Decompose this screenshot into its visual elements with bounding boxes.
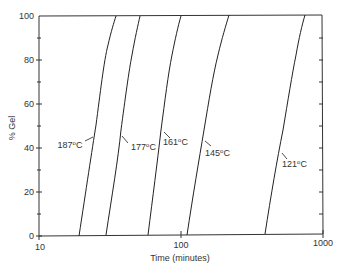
gel-time-chart: 0 20 40 60 80 100 10 100 1000 Time (minu…: [0, 0, 340, 270]
curve-121C: [265, 15, 305, 234]
x-tick-1000: 1000: [313, 238, 333, 248]
label-177C: 177oC: [131, 142, 156, 152]
label-161C: 161oC: [163, 137, 188, 147]
y-tick-20: 20: [24, 187, 34, 197]
label-145C: 145oC: [205, 148, 230, 158]
label-121C: 121oC: [282, 159, 307, 169]
curves: [79, 15, 305, 236]
y-tick-0: 0: [29, 231, 34, 241]
y-tick-80: 80: [24, 55, 34, 65]
curve-145C: [187, 15, 229, 235]
curve-161C: [148, 16, 181, 235]
y-axis-labels: 0 20 40 60 80 100: [19, 11, 34, 241]
plot-frame: [39, 15, 323, 236]
y-tick-40: 40: [24, 143, 34, 153]
y-tick-60: 60: [24, 99, 34, 109]
curve-labels: 187oC 177oC 161oC 145oC 121oC: [58, 137, 308, 169]
x-tick-10: 10: [35, 242, 45, 252]
x-tick-100: 100: [173, 240, 188, 250]
curve-177C: [106, 16, 140, 235]
label-187C: 187oC: [58, 140, 83, 150]
y-axis-title: % Gel: [7, 116, 17, 141]
x-axis-title: Time (minutes): [150, 253, 210, 263]
y-tick-100: 100: [19, 11, 34, 21]
x-axis-labels: 10 100 1000: [35, 238, 333, 252]
